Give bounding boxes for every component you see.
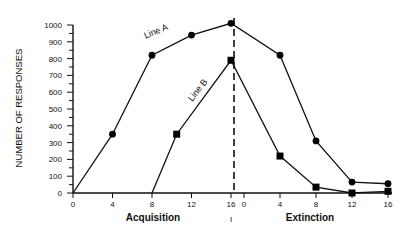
line-a-path — [73, 23, 388, 193]
square-marker — [313, 184, 320, 191]
square-marker — [349, 190, 356, 197]
x-axis: 04812160481216 — [71, 193, 393, 209]
circle-marker — [349, 179, 356, 186]
circle-marker — [385, 180, 392, 187]
y-tick-label: 1000 — [44, 21, 62, 30]
circle-marker — [109, 131, 116, 138]
y-tick-label: 900 — [49, 38, 63, 47]
x-tick-label: 0 — [71, 200, 76, 209]
y-axis-title: NUMBER OF RESPONSES — [13, 49, 24, 168]
square-marker — [277, 153, 284, 160]
x-tick-label: 16 — [227, 200, 236, 209]
y-tick-label: 300 — [49, 139, 63, 148]
x-tick-label: 8 — [314, 200, 319, 209]
circle-marker — [313, 138, 320, 145]
y-tick-label: 700 — [49, 71, 63, 80]
circle-marker — [277, 52, 284, 59]
learning-curve-chart: 01002003004005006007008009001000 0481216… — [0, 0, 410, 233]
divider-marker: I — [230, 215, 232, 224]
series-layer — [73, 20, 392, 197]
x-tick-label: 4 — [110, 200, 115, 209]
circle-marker — [228, 20, 235, 27]
square-marker — [228, 57, 235, 64]
x-tick-label: 8 — [150, 200, 155, 209]
y-tick-label: 400 — [49, 122, 63, 131]
circle-marker — [188, 32, 195, 39]
line-b-path — [152, 60, 388, 193]
y-axis: 01002003004005006007008009001000 — [44, 21, 73, 198]
square-marker — [385, 188, 392, 195]
circle-marker — [149, 52, 156, 59]
y-tick-label: 500 — [49, 105, 63, 114]
x-tick-label: 4 — [278, 200, 283, 209]
acquisition-label: Acquisition — [126, 212, 180, 223]
extinction-label: Extinction — [286, 212, 334, 223]
y-tick-label: 0 — [58, 189, 63, 198]
x-tick-label: 0 — [242, 200, 247, 209]
x-tick-label: 12 — [187, 200, 196, 209]
y-tick-label: 200 — [49, 155, 63, 164]
square-marker — [173, 131, 180, 138]
line-a-label: Line A — [142, 22, 169, 41]
y-tick-label: 100 — [49, 172, 63, 181]
x-tick-label: 12 — [348, 200, 357, 209]
line-b-label: Line B — [186, 77, 210, 103]
x-tick-label: 16 — [384, 200, 393, 209]
y-tick-label: 600 — [49, 88, 63, 97]
y-tick-label: 800 — [49, 55, 63, 64]
